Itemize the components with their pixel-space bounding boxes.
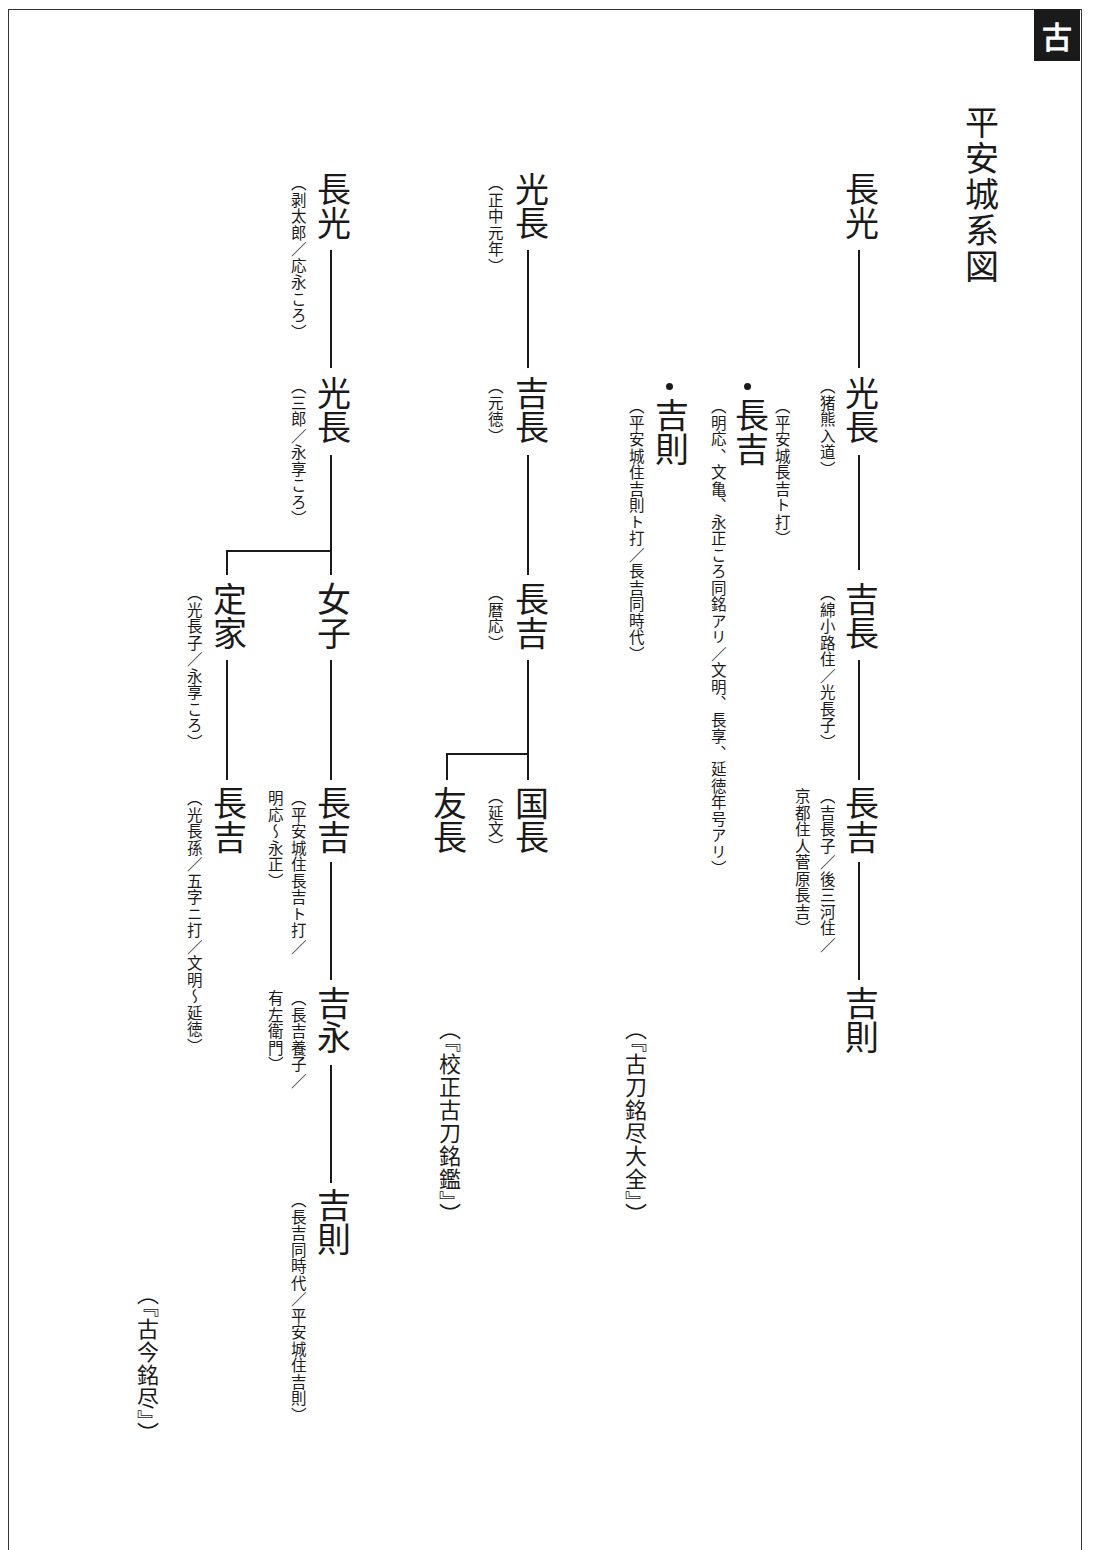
l1-connector: [858, 660, 860, 780]
l3-gen4a-note: （平安城住長吉ト打／: [286, 790, 307, 955]
l3-connector: [330, 862, 332, 980]
l2-root-note: （正中元年）: [483, 175, 504, 274]
l2-gen3-note: （暦応）: [483, 585, 504, 651]
l2-connector: [527, 250, 529, 368]
l3-gen4a-note: 明応～永正）: [263, 790, 284, 889]
l2-gen2-name: 吉長: [512, 376, 546, 444]
bullet-icon: [666, 383, 673, 390]
l3-root-note: （剥太郎／応永ころ）: [286, 175, 307, 340]
l3-root-name: 長光: [314, 172, 348, 240]
l3-child2-name: 定家: [210, 582, 244, 650]
l1-side2-name: 吉則: [652, 398, 686, 466]
l3-gen6a-name: 吉則: [314, 1188, 348, 1256]
l3-gen5a-note: （長吉養子／: [286, 990, 307, 1089]
l2-root-name: 光長: [512, 172, 546, 240]
diagram-title: 平安城系図: [955, 105, 1004, 285]
l3-connector: [330, 1065, 332, 1183]
l2-child2-name: 友長: [430, 786, 464, 854]
l1-gen5-name: 吉則: [842, 986, 876, 1054]
l1-connector: [858, 250, 860, 368]
l2-connector: [527, 660, 529, 780]
l2-gen3-name: 長吉: [512, 582, 546, 650]
l3-gen5a-name: 吉永: [314, 986, 348, 1054]
l3-gen2-note: （三郎／永享ころ）: [286, 378, 307, 527]
l2-connector: [527, 455, 529, 575]
l2-gen2-note: （元徳）: [483, 378, 504, 444]
l1-connector: [858, 455, 860, 570]
bullet-icon: [744, 383, 751, 390]
l3-connector: [226, 550, 228, 575]
l2-source: （『校正古刀銘鑑』）: [436, 1018, 458, 1226]
l1-gen2-note: （猪熊入道）: [815, 378, 836, 477]
l3-gen4b-name: 長吉: [210, 786, 244, 854]
l3-gen6a-note: （長吉同時代／平安城住吉則）: [286, 1192, 307, 1423]
l3-gen5a-note: 有左衛門）: [263, 990, 284, 1073]
l3-child2-note: （光長子／永享ころ）: [182, 585, 203, 750]
l1-side1-name: 長吉: [732, 398, 766, 466]
l3-child1-name: 女子: [314, 582, 348, 650]
l1-gen4-note: （吉長子／後三河住／: [815, 788, 836, 953]
l1-gen2-name: 光長: [842, 376, 876, 444]
l1-connector: [858, 862, 860, 980]
page-index-tab: 古: [1034, 9, 1080, 61]
l3-source: （『古今銘尽』）: [134, 1283, 156, 1445]
l1-side1-note: （平安城長吉ト打）: [770, 398, 791, 547]
l2-child1-note: （延文）: [483, 788, 504, 854]
l3-connector: [330, 660, 332, 780]
l3-connector: [330, 455, 332, 575]
l3-gen2-name: 光長: [314, 376, 348, 444]
l2-child1-name: 国長: [512, 786, 546, 854]
l1-source: （『古刀銘尽大全』）: [622, 1018, 644, 1226]
l1-gen3-note: （綿小路住／光長子）: [815, 585, 836, 750]
l1-side1-subnote: （明応、文亀、永正ころ同銘アリ／文明、長享、延徳年号アリ）: [706, 398, 727, 877]
l1-side2-note: （平安城住吉則ト打／長吉同時代）: [624, 398, 645, 662]
l2-connector: [446, 753, 448, 780]
l1-gen4-name: 長吉: [842, 786, 876, 854]
l2-branch-line: [446, 753, 529, 755]
l3-gen4a-name: 長吉: [314, 786, 348, 854]
l1-gen4-note: 京都住人菅原長吉）: [790, 788, 811, 937]
l3-connector: [226, 660, 228, 780]
l3-connector: [330, 250, 332, 368]
page-frame: [8, 9, 1082, 1550]
l3-gen4b-note: （光長孫／五字ニ打／文明～延徳）: [182, 790, 203, 1054]
l1-root-name: 長光: [842, 172, 876, 240]
l3-branch-line: [226, 550, 332, 552]
l1-gen3-name: 吉長: [842, 582, 876, 650]
